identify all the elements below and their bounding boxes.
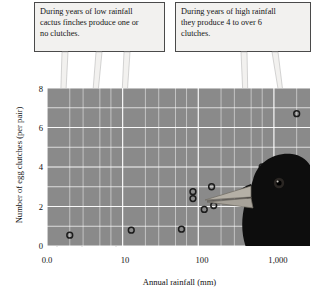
y-tick-label: 8 <box>21 84 43 94</box>
figure-container: During years of low rainfall cactus finc… <box>0 0 321 303</box>
data-point <box>179 226 185 232</box>
x-tick-label: 1,000 <box>258 255 298 265</box>
y-axis-title: Number of egg clutches (per pair) <box>14 80 24 250</box>
x-tick-label: 10 <box>105 255 145 265</box>
y-tick-label: 0 <box>21 241 43 251</box>
x-axis-title: Annual rainfall (mm) <box>0 277 321 287</box>
data-point <box>128 227 134 233</box>
y-tick-label: 2 <box>21 202 43 212</box>
x-tick-label: 100 <box>182 255 222 265</box>
x-tick-label: 0.0 <box>27 255 67 265</box>
plot-area <box>47 88 310 246</box>
y-tick-label: 6 <box>21 123 43 133</box>
y-tick-label: 4 <box>21 162 43 172</box>
cactus-finch-head-icon <box>195 140 310 246</box>
